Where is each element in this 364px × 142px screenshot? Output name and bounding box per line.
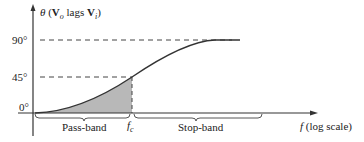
x-axis-arrow-icon [310, 111, 318, 116]
y-axis-label: θ (Vo lags Vi) [40, 7, 101, 21]
paren-close: ) [97, 6, 101, 18]
pass-band-label: Pass-band [62, 122, 107, 133]
y-tick-45: 45° [12, 72, 27, 83]
phase-plot: θ (Vo lags Vi) 90° 45° 0° Pass-band fc S… [0, 0, 364, 142]
fc-sub: c [130, 125, 134, 134]
y-axis-arrow-icon [31, 4, 36, 11]
pass-band-brace [35, 114, 130, 121]
v-symbol: V [87, 6, 95, 18]
shaded-area [35, 77, 132, 113]
stop-band-brace [134, 114, 262, 121]
lags-text: lags [64, 6, 87, 18]
phase-curve [35, 40, 240, 113]
y-tick-90: 90° [12, 35, 27, 46]
fc-label: fc [127, 120, 134, 134]
v-symbol: V [52, 6, 60, 18]
log-scale-text: (log scale) [303, 120, 352, 132]
x-axis-label: f (log scale) [300, 121, 352, 132]
stop-band-label: Stop-band [178, 122, 223, 133]
y-tick-0: 0° [19, 102, 29, 113]
